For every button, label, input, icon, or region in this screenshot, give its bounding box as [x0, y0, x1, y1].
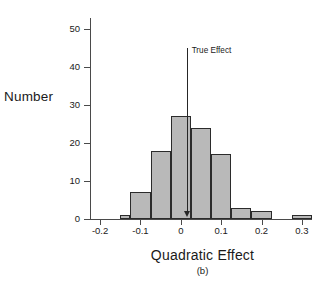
y-tick-label: 50	[54, 23, 80, 34]
histogram-bar	[292, 215, 312, 219]
true-effect-arrow-line	[187, 48, 189, 211]
figure-caption: (b)	[95, 265, 310, 276]
x-tick-label: 0.3	[285, 225, 319, 236]
y-axis-line	[90, 18, 91, 220]
y-tick-mark	[84, 29, 90, 30]
figure-histogram-quadratic-effect: Number 01020304050 -0.2-0.100.10.20.3 Tr…	[0, 0, 325, 282]
y-tick-mark	[84, 143, 90, 144]
true-effect-arrow-head	[184, 211, 190, 217]
x-axis-line	[90, 219, 312, 220]
histogram-bar	[151, 151, 171, 219]
histogram-bar	[120, 215, 130, 219]
y-tick-mark	[84, 181, 90, 182]
histogram-bar	[231, 208, 251, 219]
x-tick-label: 0.2	[245, 225, 279, 236]
y-tick-mark	[84, 67, 90, 68]
y-tick-label: 0	[54, 213, 80, 224]
x-tick-label: 0	[164, 225, 198, 236]
histogram-bar	[251, 211, 271, 219]
x-tick-label: 0.1	[204, 225, 238, 236]
true-effect-label: True Effect	[192, 46, 232, 55]
histogram-bar	[211, 154, 231, 219]
y-tick-label: 20	[54, 137, 80, 148]
x-tick-label: -0.1	[123, 225, 157, 236]
y-tick-mark	[84, 105, 90, 106]
y-tick-label: 40	[54, 61, 80, 72]
histogram-bar	[191, 128, 211, 219]
x-axis-title: Quadratic Effect	[95, 247, 310, 263]
plot-area: 01020304050 -0.2-0.100.10.20.3 True Effe…	[0, 0, 325, 282]
histogram-bar	[130, 192, 150, 219]
x-tick-label: -0.2	[83, 225, 117, 236]
y-tick-label: 30	[54, 99, 80, 110]
y-tick-label: 10	[54, 175, 80, 186]
y-tick-mark	[84, 219, 90, 220]
